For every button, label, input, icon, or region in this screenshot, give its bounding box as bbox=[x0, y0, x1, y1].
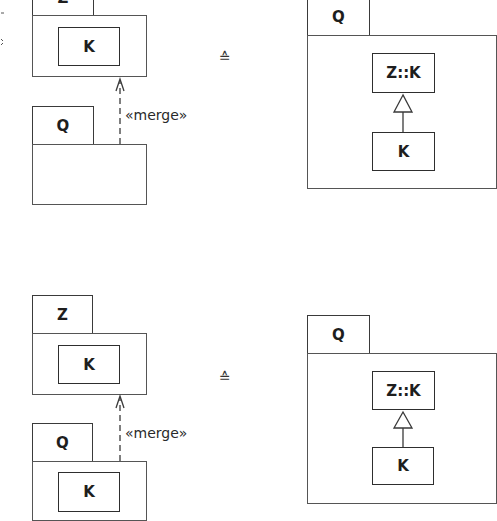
generalization-arrow bbox=[394, 412, 412, 447]
merge-arrow bbox=[116, 396, 124, 461]
cropped-marks bbox=[1, 13, 4, 45]
merge-arrow bbox=[116, 79, 124, 144]
generalization-arrow bbox=[394, 95, 412, 132]
